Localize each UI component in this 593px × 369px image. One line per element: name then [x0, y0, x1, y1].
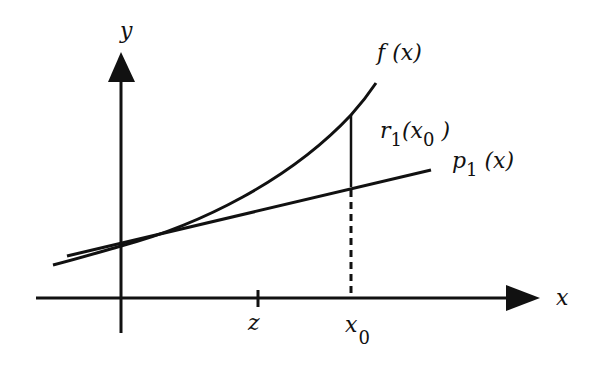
z-label: z	[247, 310, 260, 335]
y-axis-label: y	[119, 18, 133, 43]
p1-label: p1 (x)	[452, 148, 514, 180]
taylor-diagram: y x z x0 f (x) r1(x0 ) p1 (x)	[0, 0, 593, 369]
r1-label: r1(x0 )	[380, 118, 450, 150]
y-axis	[108, 52, 135, 333]
x-axis	[36, 285, 540, 311]
x-axis-arrow-icon	[506, 285, 540, 311]
f-label: f (x)	[375, 40, 422, 65]
x0-label-main: x	[345, 312, 358, 337]
y-axis-arrow-icon	[108, 52, 135, 82]
x0-label-sub: 0	[358, 327, 369, 348]
f-curve	[53, 83, 376, 265]
x-axis-label: x	[556, 285, 569, 310]
x0-label: x0	[345, 312, 370, 348]
